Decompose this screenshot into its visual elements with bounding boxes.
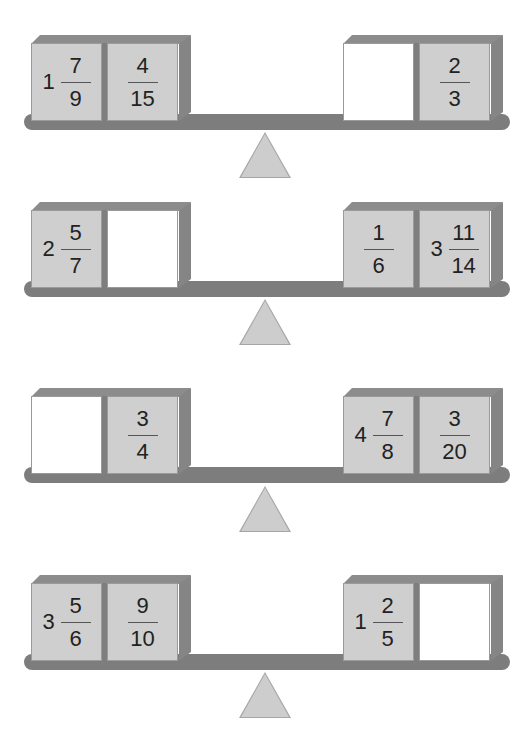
fraction: 56 [61,594,91,651]
fraction-box: 179 [31,43,102,121]
fraction-bar [128,622,158,623]
whole-part: 3 [42,611,54,633]
fraction: 57 [61,221,91,278]
denominator: 10 [128,627,156,651]
box-side-face [491,575,503,661]
numerator: 2 [380,594,396,618]
fraction-bar [440,82,470,83]
fraction-box: 320 [419,396,490,474]
box-side-face [179,202,191,288]
answer-box-blank[interactable] [107,210,178,288]
fraction-box: 415 [107,43,178,121]
denominator: 6 [370,254,386,278]
numerator: 7 [380,407,396,431]
left-pan-boxes: 34 [31,388,191,476]
mixed-number: 16 [364,221,394,278]
numerator: 11 [450,221,477,245]
right-pan-boxes: 23 [343,35,503,123]
mixed-number: 356 [42,594,90,651]
numerator: 1 [370,221,386,245]
box-side-face [491,202,503,288]
numerator: 7 [68,54,84,78]
fraction-bar [61,82,91,83]
fulcrum-triangle-icon [239,299,291,345]
box-side-face [179,575,191,661]
right-pan-boxes: 1631114 [343,202,503,290]
denominator: 9 [68,87,84,111]
fraction-bar [128,435,158,436]
fraction-box: 31114 [419,210,490,288]
numerator: 3 [446,407,462,431]
fraction: 34 [128,407,158,464]
mixed-number: 23 [440,54,470,111]
fraction-box: 478 [343,396,414,474]
mixed-number: 478 [354,407,402,464]
fulcrum-triangle-icon [239,486,291,532]
fraction-box: 23 [419,43,490,121]
fraction: 16 [364,221,394,278]
mixed-number: 179 [42,54,90,111]
fraction: 23 [440,54,470,111]
fraction-bar [61,622,91,623]
numerator: 4 [134,54,150,78]
mixed-number: 910 [128,594,158,651]
denominator: 3 [446,87,462,111]
fraction-bar [373,622,403,623]
whole-part: 3 [430,238,442,260]
whole-part: 2 [42,238,54,260]
denominator: 15 [128,87,156,111]
numerator: 5 [68,594,84,618]
fraction-box: 125 [343,583,414,661]
fraction-bar [364,249,394,250]
numerator: 3 [134,407,150,431]
mixed-number: 34 [128,407,158,464]
fraction: 1114 [449,221,479,278]
denominator: 7 [68,254,84,278]
answer-box-blank[interactable] [31,396,102,474]
denominator: 14 [449,254,477,278]
numerator: 5 [68,221,84,245]
right-pan-boxes: 125 [343,575,503,663]
fraction-bar [128,82,158,83]
left-pan-boxes: 356910 [31,575,191,663]
mixed-number: 415 [128,54,158,111]
right-pan-boxes: 478320 [343,388,503,476]
fraction-box: 16 [343,210,414,288]
fraction-box: 910 [107,583,178,661]
left-pan-boxes: 257 [31,202,191,290]
fraction-bar [373,435,403,436]
whole-part: 1 [354,611,366,633]
answer-box-blank[interactable] [343,43,414,121]
numerator: 2 [446,54,462,78]
box-side-face [491,35,503,121]
denominator: 5 [380,627,396,651]
fraction-bar [440,435,470,436]
fraction-bar [449,249,479,250]
denominator: 20 [440,440,468,464]
denominator: 8 [380,440,396,464]
fraction: 79 [61,54,91,111]
fulcrum-triangle-icon [239,132,291,178]
box-side-face [491,388,503,474]
fraction-box: 356 [31,583,102,661]
answer-box-blank[interactable] [419,583,490,661]
fraction-box: 34 [107,396,178,474]
fraction: 320 [440,407,470,464]
box-side-face [179,35,191,121]
numerator: 9 [134,594,150,618]
fraction: 910 [128,594,158,651]
fraction: 25 [373,594,403,651]
whole-part: 4 [354,424,366,446]
mixed-number: 31114 [430,221,478,278]
mixed-number: 125 [354,594,402,651]
denominator: 6 [68,627,84,651]
fraction: 78 [373,407,403,464]
fraction-box: 257 [31,210,102,288]
whole-part: 1 [42,71,54,93]
fraction-bar [61,249,91,250]
box-side-face [179,388,191,474]
mixed-number: 320 [440,407,470,464]
mixed-number: 257 [42,221,90,278]
fulcrum-triangle-icon [239,672,291,718]
left-pan-boxes: 179415 [31,35,191,123]
